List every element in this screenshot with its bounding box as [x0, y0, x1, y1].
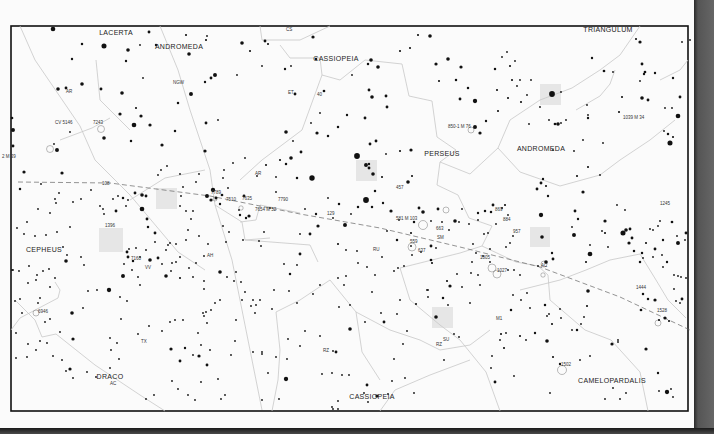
star-dot [304, 330, 306, 332]
object-label: 1027 [497, 268, 508, 273]
star-dot [579, 359, 581, 361]
star-dot [354, 153, 360, 159]
star-dot [187, 229, 189, 231]
star-dot [583, 316, 585, 318]
star-dot [126, 48, 130, 52]
star-dot [430, 245, 433, 248]
star-dot [300, 151, 303, 154]
star-dot [364, 321, 366, 323]
star-dot [516, 85, 518, 87]
constellation-boundary-line [322, 60, 456, 162]
star-dot [332, 217, 334, 219]
star-dot [184, 347, 186, 349]
star-dot [658, 390, 660, 392]
star-dot [681, 298, 684, 301]
star-dot [514, 60, 516, 62]
star-dot [554, 123, 557, 126]
star-dot [459, 65, 462, 68]
constellation-boundary-line [400, 268, 500, 411]
constellation-name: TRIANGULUM [583, 26, 632, 33]
star-dot [633, 250, 636, 253]
constellation-boundary-line [272, 312, 280, 411]
star-dot [494, 381, 497, 384]
star-dot [402, 343, 404, 345]
star-dot [15, 357, 17, 359]
star-dot [621, 96, 623, 98]
star-dot [430, 220, 432, 222]
star-dot [676, 241, 680, 245]
star-dot [411, 175, 413, 177]
star-dot [175, 243, 177, 245]
star-dot [363, 197, 369, 203]
star-dot [120, 318, 122, 320]
star-dot [458, 336, 460, 338]
star-chart: CSNGWARCV 514672432 M 3940ET850-1 M 7610… [0, 0, 694, 430]
star-dot [242, 239, 244, 241]
star-dot [631, 237, 634, 240]
star-dot [409, 47, 411, 49]
star-dot [560, 91, 562, 93]
star-dot [364, 163, 368, 167]
star-dot [36, 274, 38, 276]
star-dot [357, 262, 359, 264]
cluster-marker [408, 243, 416, 251]
star-dot [102, 136, 106, 140]
star-dot [548, 313, 550, 315]
star-dot [153, 394, 155, 396]
star-dot [652, 229, 654, 231]
object-label: 1502 [561, 362, 572, 367]
constellation-boundary-line [11, 282, 60, 330]
star-dot [273, 289, 275, 291]
star-dot [356, 250, 358, 252]
star-dot [145, 249, 147, 251]
star-dot [552, 258, 555, 261]
star-dot [490, 367, 492, 369]
star-dot [160, 169, 162, 171]
star-dot [525, 339, 527, 341]
star-dot [560, 122, 562, 124]
star-dot [572, 233, 576, 237]
star-dot [135, 247, 137, 249]
star-dot [118, 112, 121, 115]
star-dot [345, 275, 347, 277]
star-dot [658, 319, 660, 321]
star-dot [71, 58, 73, 60]
star-dot [441, 221, 443, 223]
star-dot [571, 226, 573, 228]
star-dot [503, 347, 505, 349]
star-dot [80, 198, 82, 200]
star-dot [375, 140, 378, 143]
star-dot [169, 242, 171, 244]
star-dot [148, 123, 151, 126]
star-dot [544, 304, 547, 307]
star-dot [335, 351, 338, 354]
star-dot [577, 218, 579, 220]
star-dot [210, 309, 212, 311]
star-dot [139, 114, 142, 117]
star-dot [635, 38, 637, 40]
star-dot [148, 31, 151, 34]
star-dot [226, 276, 228, 278]
star-dot [489, 248, 491, 250]
star-dot [586, 289, 590, 293]
star-dot [203, 288, 205, 290]
star-dot [331, 406, 333, 408]
star-dot [22, 170, 25, 173]
star-dot [103, 213, 105, 215]
star-dot [599, 174, 601, 176]
constellation-name: LACERTA [99, 29, 133, 36]
star-dot [540, 235, 544, 239]
star-dot [461, 286, 463, 288]
star-dot [500, 333, 502, 335]
star-dot [581, 190, 584, 193]
star-dot [125, 60, 127, 62]
star-dot [142, 77, 144, 79]
star-dot [393, 358, 395, 360]
star-dot [80, 256, 82, 258]
object-label: 1444 [636, 285, 647, 290]
star-dot [203, 255, 205, 257]
star-dot [539, 106, 541, 108]
star-dot [55, 202, 57, 204]
star-dot [653, 298, 656, 301]
star-dot [672, 396, 674, 398]
